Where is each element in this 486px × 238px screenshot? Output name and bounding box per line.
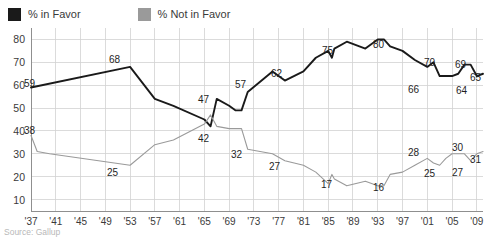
point-label-in-favor-3: 57 [235, 80, 246, 90]
point-label-not-in-favor-4: 27 [269, 162, 280, 172]
point-label-in-favor-5: 75 [322, 46, 333, 56]
series-line-in-favor [31, 39, 483, 126]
point-label-in-favor-1: 68 [109, 55, 120, 65]
point-label-not-in-favor-5: 17 [321, 180, 332, 190]
y-axis-tick-70: 70 [3, 57, 25, 67]
square-swatch-icon-not-in-favor [138, 8, 151, 21]
chart-figure: % in Favor % Not in Favor 80706050403020… [0, 0, 486, 238]
point-label-not-in-favor-10: 27 [452, 168, 463, 178]
y-axis-tick-60: 60 [3, 80, 25, 90]
chart-axis-lines [31, 28, 483, 211]
chart-legend: % in Favor % Not in Favor [8, 5, 230, 23]
point-label-in-favor-6: 80 [373, 40, 384, 50]
point-label-not-in-favor-9: 30 [452, 143, 463, 153]
source-note: Source: Gallup [4, 228, 60, 237]
point-label-in-favor-8: 70 [424, 58, 435, 68]
legend-entry-in-favor: % in Favor [8, 8, 81, 21]
y-axis-tick-30: 30 [3, 149, 25, 159]
point-label-in-favor-2: 47 [198, 95, 209, 105]
point-label-not-in-favor-8: 25 [424, 169, 435, 179]
chart-gridlines [31, 28, 483, 211]
point-label-in-favor-11: 65 [470, 73, 481, 83]
point-label-not-in-favor-0: 38 [24, 126, 35, 136]
point-label-not-in-favor-7: 28 [408, 148, 419, 158]
point-label-not-in-favor-6: 16 [373, 183, 384, 193]
point-label-in-favor-9: 69 [455, 60, 466, 70]
point-label-not-in-favor-2: 42 [198, 134, 209, 144]
chart-plot-area [0, 0, 486, 238]
point-label-not-in-favor-1: 25 [107, 168, 118, 178]
point-label-in-favor-4: 62 [271, 69, 282, 79]
legend-entry-not-in-favor: % Not in Favor [138, 8, 231, 21]
legend-label-in-favor: % in Favor [28, 8, 81, 21]
point-label-in-favor-10: 64 [456, 86, 467, 96]
y-axis-tick-40: 40 [3, 126, 25, 136]
y-axis-tick-10: 10 [3, 195, 25, 205]
point-label-not-in-favor-3: 32 [231, 150, 242, 160]
y-axis-tick-80: 80 [3, 34, 25, 44]
point-label-not-in-favor-11: 31 [470, 155, 481, 165]
point-label-in-favor-0: 59 [24, 79, 35, 89]
chart-series-lines [31, 39, 483, 185]
y-axis-tick-20: 20 [3, 172, 25, 182]
legend-label-not-in-favor: % Not in Favor [158, 8, 231, 21]
y-axis-tick-50: 50 [3, 103, 25, 113]
x-axis-tick-y09: '09 [463, 217, 486, 227]
square-swatch-icon-in-favor [8, 8, 21, 21]
point-label-in-favor-7: 66 [408, 85, 419, 95]
